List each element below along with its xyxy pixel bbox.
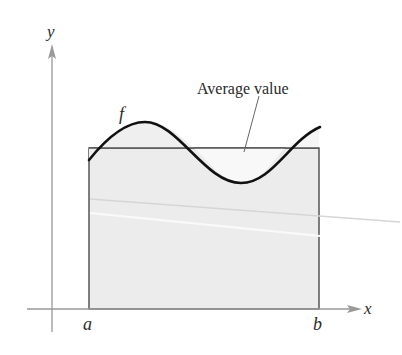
interval-right-label: b bbox=[313, 314, 322, 334]
interval-left-label: a bbox=[83, 314, 92, 334]
average-value-diagram: y x a b f Average value bbox=[0, 0, 402, 355]
average-value-annotation: Average value bbox=[197, 80, 289, 98]
average-value-rectangle bbox=[89, 148, 319, 309]
x-axis-label: x bbox=[363, 299, 372, 318]
annotation-leader-line bbox=[244, 96, 259, 152]
y-axis-label: y bbox=[45, 22, 55, 41]
function-label: f bbox=[119, 104, 127, 124]
